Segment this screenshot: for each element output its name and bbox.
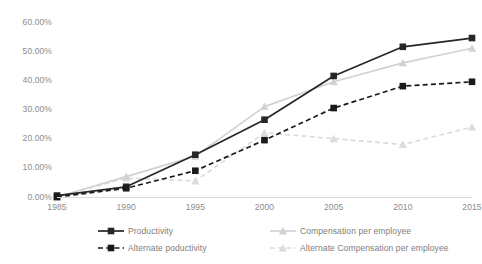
legend-item-label: Alternate poductivity xyxy=(128,243,207,254)
legend-item-label: Alternate Compensation per employee xyxy=(300,243,449,254)
y-tick-label: 40.00% xyxy=(0,76,52,85)
legend-swatch-icon xyxy=(270,242,296,254)
series-canvas xyxy=(57,22,472,197)
x-tick-label: 2005 xyxy=(324,202,343,212)
x-axis-line xyxy=(57,197,472,198)
y-tick-label: 20.00% xyxy=(0,134,52,143)
y-tick-label: 30.00% xyxy=(0,105,52,114)
y-tick-label: 0.00% xyxy=(0,193,52,202)
y-axis: 60.00% 50.00% 40.00% 30.00% 20.00% 10.00… xyxy=(0,0,52,220)
plot-area xyxy=(57,22,472,197)
legend-item-productivity[interactable]: Productivity xyxy=(98,224,173,238)
x-tick-label: 2000 xyxy=(255,202,274,212)
x-tick-label: 2015 xyxy=(462,202,481,212)
x-tick-label: 1995 xyxy=(186,202,205,212)
legend-item-compensation-per-employee[interactable]: Compensation per employee xyxy=(270,224,411,238)
chart-legend: Productivity Alternate poductivity Compe… xyxy=(60,224,472,258)
legend-item-label: Compensation per employee xyxy=(300,226,411,237)
legend-item-alternate-compensation-per-employee[interactable]: Alternate Compensation per employee xyxy=(270,241,449,255)
y-tick-label: 60.00% xyxy=(0,18,52,27)
legend-swatch-icon xyxy=(98,242,124,254)
y-tick-label: 10.00% xyxy=(0,163,52,172)
x-tick-label: 2010 xyxy=(393,202,412,212)
legend-swatch-icon xyxy=(98,225,124,237)
y-tick-label: 50.00% xyxy=(0,47,52,56)
x-axis: 1985 1990 1995 2000 2005 2010 2015 xyxy=(57,202,472,216)
x-tick-label: 1990 xyxy=(117,202,136,212)
legend-swatch-icon xyxy=(270,225,296,237)
legend-item-alternate-productivity[interactable]: Alternate poductivity xyxy=(98,241,207,255)
legend-item-label: Productivity xyxy=(128,226,173,237)
x-tick-label: 1985 xyxy=(47,202,66,212)
